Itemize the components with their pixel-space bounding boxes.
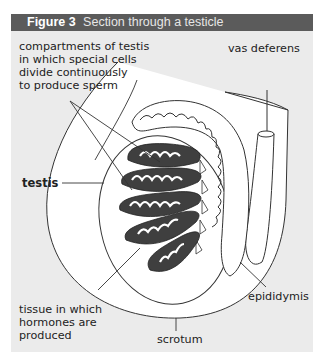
- label-compartments-line2: in which special cells: [19, 53, 149, 66]
- label-testis: testis: [22, 177, 58, 190]
- label-compartments-line1: compartments of testis: [19, 40, 149, 53]
- label-compartments-line4: to produce sperm: [19, 79, 149, 92]
- label-compartments-line3: divide continuously: [19, 66, 149, 79]
- label-compartments: compartments of testis in which special …: [19, 40, 149, 92]
- label-tissue-line1: tissue in which: [19, 303, 102, 316]
- label-vas-deferens: vas deferens: [228, 42, 300, 55]
- label-epididymis: epididymis: [248, 290, 309, 303]
- label-scrotum: scrotum: [157, 333, 203, 346]
- label-tissue: tissue in which hormones are produced: [19, 303, 102, 342]
- label-tissue-line2: hormones are: [19, 316, 102, 329]
- label-tissue-line3: produced: [19, 329, 102, 342]
